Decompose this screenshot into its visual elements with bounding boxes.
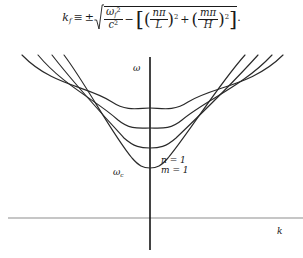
dispersion-curve-mode-4 (22, 55, 283, 109)
mode-index-m-label: m = 1 (161, 165, 189, 175)
y-axis-label-text: ω (133, 63, 140, 73)
dispersion-curve-mode-2 (52, 55, 258, 148)
x-axis-label: k (277, 226, 282, 236)
dispersion-diagram (0, 0, 303, 258)
mode-index-n-text: n = 1 (161, 155, 186, 165)
x-axis-label-text: k (277, 226, 282, 236)
cutoff-frequency-label: ωc (113, 167, 124, 178)
mode-index-m-text: m = 1 (161, 165, 189, 175)
dispersion-curve-mode-1 (64, 55, 245, 168)
dispersion-curve-mode-3 (38, 55, 272, 128)
cutoff-omega-subscript: c (120, 172, 123, 178)
mode-index-n-label: n = 1 (161, 155, 186, 165)
textbook-figure: kf≡±ωf2c2−[(nπL)2+(mπH)2]. ω k ωc n = 1 … (0, 0, 303, 258)
y-axis-label: ω (133, 63, 140, 73)
dispersion-curves (22, 55, 283, 168)
